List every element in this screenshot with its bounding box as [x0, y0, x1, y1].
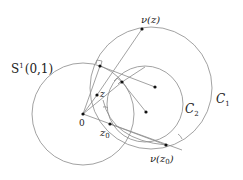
circle-c1 — [90, 27, 212, 149]
label-s1: S1(0,1) — [11, 62, 53, 76]
line-mid-to-c2-center — [122, 82, 146, 112]
angle-marker-nu-z0 — [178, 134, 182, 139]
right-angle-marker-upper — [96, 60, 102, 65]
line-z-to-nu-z — [97, 29, 142, 95]
line-mid-to-c2-edge — [122, 67, 145, 82]
label-nu-z0: ν(z0) — [150, 153, 174, 166]
line-z0-to-nu-z0 — [110, 124, 166, 145]
circle-c2 — [107, 66, 183, 142]
arc-z0-nu-z0 — [103, 100, 166, 145]
point-c1-center — [153, 85, 156, 88]
label-z: z — [99, 89, 105, 99]
line-upper-to-c1-center — [100, 66, 155, 87]
label-c1: C1 — [216, 92, 230, 108]
point-nu-z — [140, 27, 143, 30]
point-c2-center — [144, 110, 147, 113]
label-nu-z: ν(z) — [141, 14, 160, 25]
label-z0: z0 — [99, 127, 110, 140]
point-upper — [98, 64, 101, 67]
point-origin — [81, 112, 84, 115]
label-origin: 0 — [79, 118, 85, 128]
point-z — [95, 93, 98, 96]
label-c2: C2 — [185, 102, 199, 118]
diagram-canvas: S1(0,1) C1 C2 0 z z0 ν(z) ν(z0) — [0, 0, 243, 180]
point-z0 — [108, 122, 111, 125]
point-nu-z0 — [164, 143, 167, 146]
point-mid — [120, 80, 123, 83]
